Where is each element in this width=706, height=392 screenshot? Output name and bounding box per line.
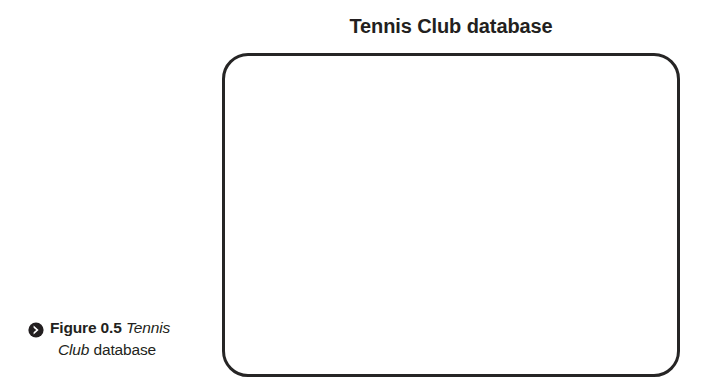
figure-caption: Figure 0.5 TennisClub database	[26, 317, 212, 361]
diagram-canvas	[225, 56, 677, 374]
caption-label: Figure 0.5	[50, 319, 122, 336]
diagram-frame	[222, 53, 680, 377]
chevron-right-circle-icon	[28, 322, 44, 338]
caption-emphasis-two: Club	[58, 341, 89, 358]
figure-caption-text: Figure 0.5 TennisClub database	[26, 317, 212, 361]
caption-trailing: database	[93, 341, 156, 358]
figure-title: Tennis Club database	[0, 14, 706, 38]
caption-emphasis-one: Tennis	[126, 319, 170, 336]
